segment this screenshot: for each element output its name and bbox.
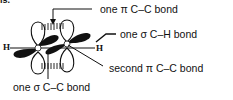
c-left-center — [35, 45, 41, 51]
h-atom-right: H — [96, 44, 103, 53]
pi1-leader-line — [53, 9, 92, 22]
pi-overlap-hatch-bottom — [42, 63, 63, 69]
right-p-lobe-bottom — [60, 48, 74, 72]
label-one-sigma-ch-bond: one σ C–H bond — [120, 28, 197, 40]
pi-overlap-hatch-top — [42, 23, 63, 30]
sigma-ch-leader-line — [96, 34, 116, 42]
label-second-pi-cc-bond: second π C–C bond — [109, 62, 203, 74]
label-one-sigma-cc-bond: one σ C–C bond — [13, 81, 90, 93]
left-p-lobe-bottom — [31, 52, 45, 74]
h-atom-left: H — [3, 43, 10, 52]
label-one-pi-cc-bond: one π C–C bond — [100, 3, 178, 15]
